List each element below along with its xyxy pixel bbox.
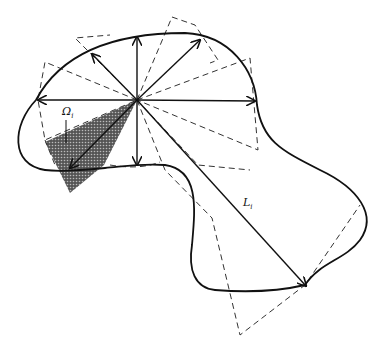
length-label: Li [243,196,253,211]
diagram-canvas: Ωi Li [0,0,385,350]
length-subscript: i [250,203,252,211]
diagram-svg [0,0,385,350]
omega-subscript: i [71,112,73,120]
omega-symbol: Ω [62,105,71,118]
omega-label: Ωi [62,105,73,120]
